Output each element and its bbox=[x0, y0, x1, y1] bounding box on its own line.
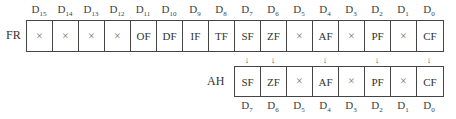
arrow-placeholder bbox=[338, 55, 364, 65]
ah-bit-label-d0: D0 bbox=[416, 99, 442, 114]
ah-bit-label-d2: D2 bbox=[364, 99, 390, 114]
bit-label-d12: D12 bbox=[104, 3, 130, 18]
ah-bit-label-d1: D1 bbox=[390, 99, 416, 114]
arrow-down-icon: ↓ bbox=[312, 55, 338, 65]
fr-bit-of: OF bbox=[131, 21, 157, 51]
copy-arrows: ↓ ↓ ↓ ↓ ↓ bbox=[234, 55, 442, 65]
bit-label-d11: D11 bbox=[130, 3, 156, 18]
bit-label-d4: D4 bbox=[312, 3, 338, 18]
fr-bit-df: DF bbox=[157, 21, 183, 51]
fr-register: × × × × OF DF IF TF SF ZF × AF × PF × CF bbox=[26, 20, 444, 52]
fr-bit-15: × bbox=[27, 21, 53, 51]
ah-bit-af: AF bbox=[313, 67, 339, 96]
arrow-down-icon: ↓ bbox=[260, 55, 286, 65]
bit-label-d5: D5 bbox=[286, 3, 312, 18]
ah-register: SF ZF × AF × PF × CF bbox=[234, 66, 444, 97]
ah-bit-label-d5: D5 bbox=[286, 99, 312, 114]
ah-bit-zf: ZF bbox=[261, 67, 287, 96]
ah-bit-3: × bbox=[339, 67, 365, 96]
fr-bit-cf: CF bbox=[417, 21, 443, 51]
fr-bit-1: × bbox=[391, 21, 417, 51]
bit-label-d3: D3 bbox=[338, 3, 364, 18]
bit-label-d10: D10 bbox=[156, 3, 182, 18]
bit-label-d0: D0 bbox=[416, 3, 442, 18]
bit-label-d14: D14 bbox=[52, 3, 78, 18]
fr-register-label: FR bbox=[6, 28, 21, 43]
fr-bit-if: IF bbox=[183, 21, 209, 51]
bit-label-d13: D13 bbox=[78, 3, 104, 18]
bit-label-d2: D2 bbox=[364, 3, 390, 18]
fr-bit-13: × bbox=[79, 21, 105, 51]
fr-bit-sf: SF bbox=[235, 21, 261, 51]
fr-bit-3: × bbox=[339, 21, 365, 51]
ah-bit-label-d4: D4 bbox=[312, 99, 338, 114]
arrow-placeholder bbox=[390, 55, 416, 65]
fr-bit-5: × bbox=[287, 21, 313, 51]
fr-bit-zf: ZF bbox=[261, 21, 287, 51]
ah-bit-5: × bbox=[287, 67, 313, 96]
fr-bit-14: × bbox=[53, 21, 79, 51]
arrow-placeholder bbox=[286, 55, 312, 65]
fr-bit-labels: D15 D14 D13 D12 D11 D10 D9 D8 D7 D6 D5 D… bbox=[26, 3, 442, 18]
fr-bit-tf: TF bbox=[209, 21, 235, 51]
bit-label-d1: D1 bbox=[390, 3, 416, 18]
ah-bit-label-d6: D6 bbox=[260, 99, 286, 114]
ah-bit-sf: SF bbox=[235, 67, 261, 96]
bit-label-d15: D15 bbox=[26, 3, 52, 18]
ah-register-label: AH bbox=[207, 74, 224, 89]
ah-bit-label-d7: D7 bbox=[234, 99, 260, 114]
arrow-down-icon: ↓ bbox=[416, 55, 442, 65]
fr-bit-12: × bbox=[105, 21, 131, 51]
bit-label-d8: D8 bbox=[208, 3, 234, 18]
arrow-down-icon: ↓ bbox=[234, 55, 260, 65]
bit-label-d7: D7 bbox=[234, 3, 260, 18]
ah-bit-labels: D7 D6 D5 D4 D3 D2 D1 D0 bbox=[234, 99, 442, 114]
bit-label-d9: D9 bbox=[182, 3, 208, 18]
fr-bit-af: AF bbox=[313, 21, 339, 51]
ah-bit-1: × bbox=[391, 67, 417, 96]
ah-bit-label-d3: D3 bbox=[338, 99, 364, 114]
ah-bit-pf: PF bbox=[365, 67, 391, 96]
ah-bit-cf: CF bbox=[417, 67, 443, 96]
arrow-down-icon: ↓ bbox=[364, 55, 390, 65]
bit-label-d6: D6 bbox=[260, 3, 286, 18]
fr-bit-pf: PF bbox=[365, 21, 391, 51]
